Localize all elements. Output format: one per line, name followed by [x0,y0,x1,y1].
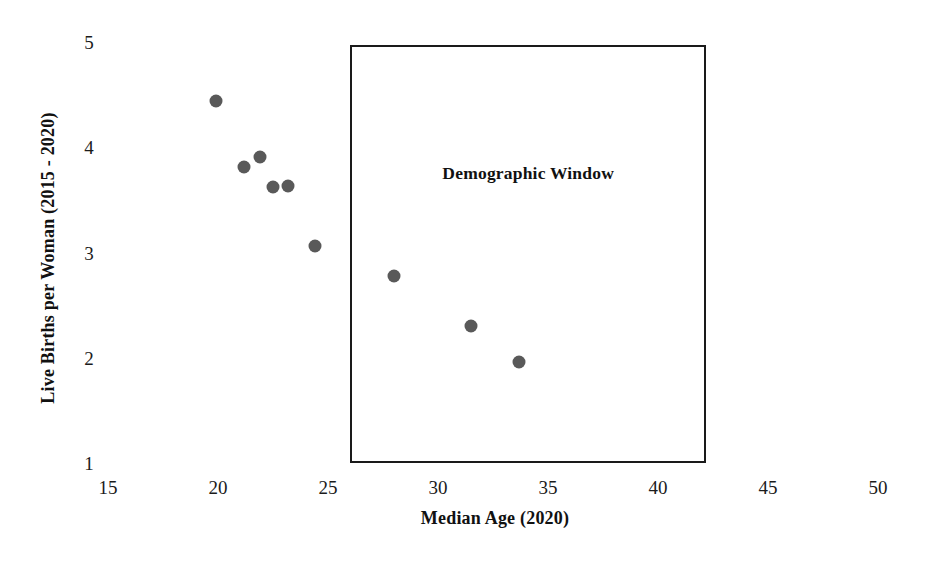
y-tick-label: 2 [84,348,94,367]
chart-figure: Demographic Window 1520253035404550 1234… [0,0,930,563]
demographic-window-rectangle [350,45,706,463]
x-tick-label: 30 [429,478,448,497]
x-axis-title: Median Age (2020) [421,508,569,529]
data-point [465,320,478,333]
data-point [267,181,280,194]
y-tick-label: 3 [84,243,94,262]
scatter-plot-area: Demographic Window 1520253035404550 1234… [0,0,930,563]
data-point [282,180,295,193]
y-tick-label: 1 [84,454,94,473]
x-tick-label: 35 [539,478,558,497]
data-point [308,240,321,253]
x-tick-label: 15 [99,478,118,497]
y-axis-title: Live Births per Woman (2015 - 2020) [38,112,59,403]
y-tick-label: 5 [84,33,94,52]
data-point [388,269,401,282]
data-point [513,355,526,368]
data-point [209,94,222,107]
data-point [238,161,251,174]
data-point [253,150,266,163]
demographic-window-label: Demographic Window [442,162,614,183]
x-tick-label: 25 [319,478,338,497]
x-tick-label: 50 [869,478,888,497]
x-tick-label: 40 [649,478,668,497]
y-tick-label: 4 [84,138,94,157]
x-tick-label: 45 [759,478,778,497]
x-tick-label: 20 [209,478,228,497]
